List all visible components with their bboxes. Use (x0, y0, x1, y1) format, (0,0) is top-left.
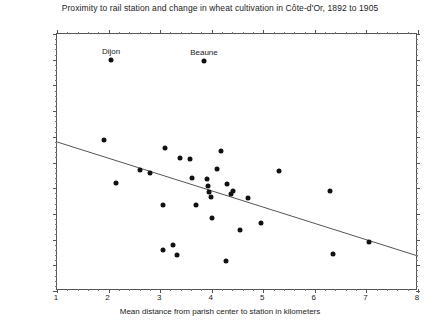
y-axis-minor-tick (416, 142, 418, 143)
x-axis-tick-label: 8 (407, 293, 427, 302)
plot-area: DijonBeaune (56, 33, 417, 290)
x-axis-minor-tick (150, 32, 151, 34)
data-point[interactable] (137, 168, 142, 173)
data-point[interactable] (209, 216, 214, 221)
data-point[interactable] (231, 189, 236, 194)
y-axis-minor-tick (416, 101, 418, 102)
data-point[interactable] (367, 239, 372, 244)
y-axis-minor-tick (416, 91, 418, 92)
x-axis-tick-label: 6 (304, 293, 324, 302)
y-axis-minor-tick (416, 65, 418, 66)
data-point[interactable] (214, 166, 219, 171)
x-axis-minor-tick (98, 32, 99, 34)
data-point[interactable] (328, 189, 333, 194)
y-axis-minor-tick (55, 178, 57, 179)
y-axis-minor-tick (416, 152, 418, 153)
data-point[interactable] (163, 146, 168, 151)
y-axis-minor-tick (55, 234, 57, 235)
x-axis-minor-tick (119, 32, 120, 34)
data-point[interactable] (147, 170, 152, 175)
data-point[interactable] (258, 221, 263, 226)
x-axis-minor-tick (274, 289, 275, 291)
x-axis-minor-tick (346, 32, 347, 34)
x-axis-minor-tick (181, 32, 182, 34)
y-axis-tick (53, 214, 57, 215)
x-axis-tick (160, 30, 161, 34)
y-axis-tick (416, 163, 420, 164)
x-axis-minor-tick (294, 32, 295, 34)
data-point[interactable] (204, 176, 209, 181)
y-axis-minor-tick (55, 80, 57, 81)
data-point[interactable] (160, 202, 165, 207)
y-axis-tick (53, 265, 57, 266)
x-axis-minor-tick (294, 289, 295, 291)
data-point[interactable] (225, 182, 230, 187)
x-axis-minor-tick (253, 32, 254, 34)
data-point[interactable] (177, 156, 182, 161)
data-point[interactable] (194, 202, 199, 207)
y-axis-minor-tick (55, 127, 57, 128)
x-axis-minor-tick (78, 289, 79, 291)
data-point[interactable] (276, 168, 281, 173)
x-axis-minor-tick (325, 32, 326, 34)
data-point[interactable] (224, 259, 229, 264)
y-axis-tick (416, 111, 420, 112)
x-axis-minor-tick (222, 32, 223, 34)
y-axis-minor-tick (416, 80, 418, 81)
x-axis-minor-tick (253, 289, 254, 291)
data-point[interactable] (190, 175, 195, 180)
y-axis-minor-tick (55, 75, 57, 76)
data-point[interactable] (201, 58, 206, 63)
x-axis-minor-tick (88, 32, 89, 34)
y-axis-minor-tick (55, 183, 57, 184)
y-axis-minor-tick (416, 229, 418, 230)
y-axis-tick (416, 214, 420, 215)
data-point[interactable] (330, 251, 335, 256)
y-axis-minor-tick (416, 224, 418, 225)
y-axis-minor-tick (55, 198, 57, 199)
y-axis-minor-tick (55, 55, 57, 56)
x-axis-tick (109, 30, 110, 34)
y-axis-minor-tick (55, 204, 57, 205)
data-point[interactable] (102, 137, 107, 142)
x-axis-minor-tick (150, 289, 151, 291)
y-axis-minor-tick (416, 39, 418, 40)
y-axis-minor-tick (416, 75, 418, 76)
y-axis-tick (53, 85, 57, 86)
y-axis-minor-tick (55, 142, 57, 143)
data-point[interactable] (174, 253, 179, 258)
y-axis-tick (53, 111, 57, 112)
x-axis-minor-tick (397, 32, 398, 34)
x-axis-tick-label: 1 (46, 293, 66, 302)
x-axis-minor-tick (140, 289, 141, 291)
y-axis-minor-tick (55, 209, 57, 210)
data-point[interactable] (160, 247, 165, 252)
y-axis-minor-tick (416, 121, 418, 122)
data-point[interactable] (206, 184, 211, 189)
data-point[interactable] (238, 228, 243, 233)
x-axis-minor-tick (387, 32, 388, 34)
data-point[interactable] (245, 196, 250, 201)
y-axis-tick (416, 137, 420, 138)
y-axis-minor-tick (55, 101, 57, 102)
y-axis-minor-tick (416, 44, 418, 45)
x-axis-minor-tick (335, 289, 336, 291)
y-axis-minor-tick (55, 250, 57, 251)
x-axis-tick-label: 4 (201, 293, 221, 302)
y-axis-minor-tick (416, 106, 418, 107)
y-axis-minor-tick (416, 116, 418, 117)
x-axis-minor-tick (201, 32, 202, 34)
data-point[interactable] (208, 195, 213, 200)
x-axis-minor-tick (305, 32, 306, 34)
data-point[interactable] (171, 242, 176, 247)
data-point[interactable] (218, 149, 223, 154)
data-point[interactable] (188, 157, 193, 162)
x-axis-minor-tick (356, 289, 357, 291)
x-axis-minor-tick (232, 32, 233, 34)
data-point[interactable] (109, 57, 114, 62)
y-axis-minor-tick (55, 106, 57, 107)
y-axis-minor-tick (55, 168, 57, 169)
x-axis-minor-tick (140, 32, 141, 34)
data-point[interactable] (114, 181, 119, 186)
x-axis-minor-tick (170, 32, 171, 34)
